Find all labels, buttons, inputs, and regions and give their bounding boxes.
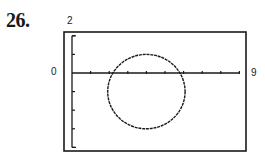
calculator-graph bbox=[0, 0, 265, 156]
circle-curve bbox=[108, 54, 185, 128]
screen-frame bbox=[64, 32, 246, 151]
axes bbox=[72, 36, 239, 148]
